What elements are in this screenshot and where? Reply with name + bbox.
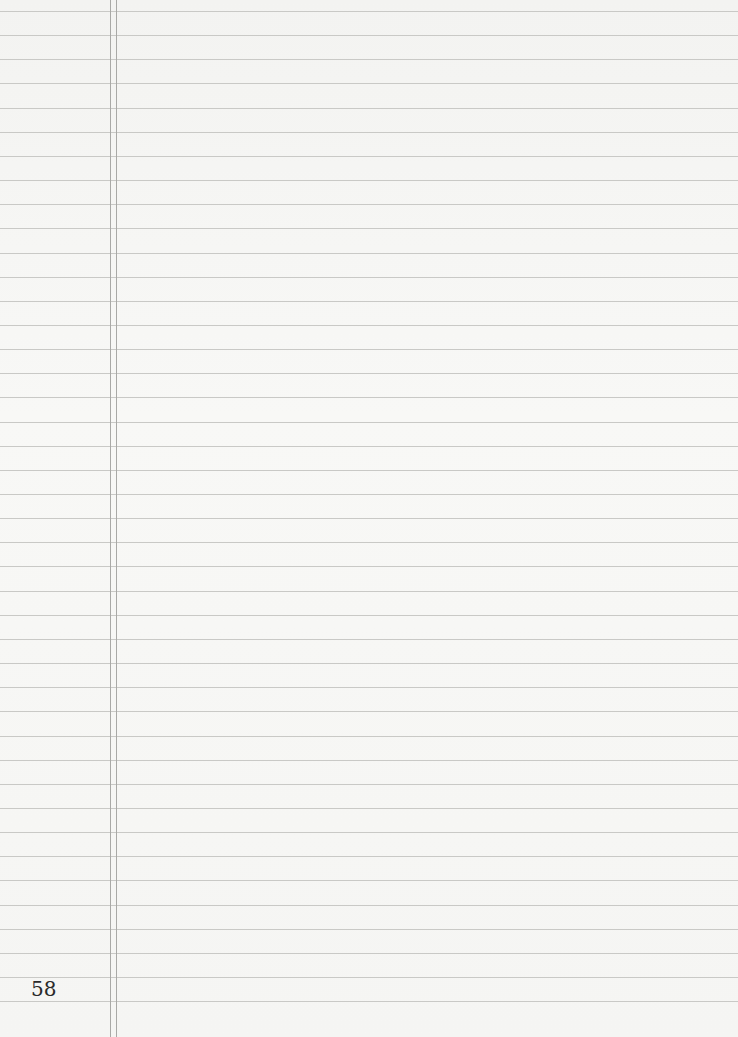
- page-number: 58: [31, 978, 56, 1000]
- margin-line-left: [110, 0, 111, 1037]
- margin-line-right: [116, 0, 117, 1037]
- notebook-page: 58: [0, 0, 738, 1037]
